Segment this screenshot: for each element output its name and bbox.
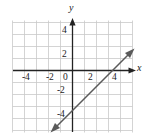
x-tick-label-2: 2: [88, 73, 93, 83]
graph-canvas: [0, 0, 147, 138]
y-tick-label-neg4: -4: [57, 110, 65, 120]
y-tick-label-4: 4: [62, 26, 67, 36]
x-tick-label-4: 4: [112, 73, 117, 83]
y-tick-label-neg2: -2: [57, 86, 65, 96]
x-axis: [13, 67, 136, 73]
x-axis-label: x: [137, 63, 141, 73]
y-tick-label-2: 2: [62, 50, 67, 60]
y-axis-label: y: [69, 3, 73, 13]
x-tick-label-0: 0: [63, 73, 68, 83]
x-tick-label-neg2: -2: [46, 73, 54, 83]
coordinate-plane-figure: -4 -2 0 2 4 4 2 -2 -4 x y: [0, 0, 147, 138]
y-axis: [69, 18, 75, 132]
x-tick-label-neg4: -4: [22, 73, 30, 83]
